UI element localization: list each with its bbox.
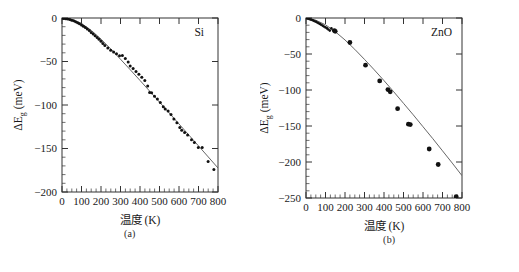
zno-plot-svg: 0 −50 −100 −150 −200 −250 [260, 0, 519, 250]
si-xtick-label-5: 500 [151, 195, 168, 207]
zno-xtick-label-4: 400 [375, 201, 392, 213]
zno-ytick-label-1: −50 [283, 48, 301, 60]
zno-xtick-label-1: 100 [317, 201, 334, 213]
si-xtick-label-4: 400 [132, 195, 149, 207]
zno-xtick-label-7: 700 [434, 201, 451, 213]
svg-text:ΔEg (meV): ΔEg (meV) [260, 82, 273, 133]
si-ytick-label-0: 0 [52, 12, 58, 24]
si-xtick-label-1: 100 [73, 195, 90, 207]
zno-ytick-label-4: −200 [278, 156, 301, 168]
si-xtick-label-0: 0 [59, 195, 65, 207]
si-data-points [62, 17, 216, 171]
si-ytick-label-1: −50 [40, 55, 58, 67]
zno-ytick-label-5: −250 [278, 192, 301, 204]
si-fit-curve [62, 18, 218, 168]
panel-a-subcaption: (a) [0, 228, 260, 239]
svg-text:ΔEg (meV): ΔEg (meV) [12, 79, 27, 130]
zno-xtick-label-8: 800 [453, 201, 470, 213]
zno-small-data-points [305, 17, 332, 32]
zno-xtick-label-0: 0 [303, 201, 309, 213]
si-plot-svg: 0 −50 −100 −150 −200 [0, 0, 259, 250]
si-axes-frame [62, 18, 218, 192]
si-xtick-label-3: 300 [112, 195, 129, 207]
zno-data-points [331, 28, 458, 199]
panel-b-subcaption: (b) [260, 234, 519, 245]
zno-ytick-label-2: −100 [278, 84, 301, 96]
panel-b-zno: 0 −50 −100 −150 −200 −250 [260, 0, 519, 272]
zno-xtick-label-5: 500 [395, 201, 412, 213]
si-ytick-label-4: −200 [34, 186, 57, 198]
panel-a-si: 0 −50 −100 −150 −200 [0, 0, 260, 272]
si-yaxis-unit: (meV) [12, 79, 25, 112]
zno-x-axis: 0 100 200 300 400 500 600 700 800 [303, 18, 471, 213]
zno-yaxis-delta-e: ΔE [260, 119, 270, 133]
si-xtick-label-7: 700 [190, 195, 207, 207]
zno-xtick-label-3: 300 [356, 201, 373, 213]
si-ytick-label-3: −150 [34, 142, 57, 154]
zno-xaxis-title: 温度 (K) [363, 219, 404, 233]
zno-material-label: ZnO [430, 26, 451, 38]
si-yaxis-title: ΔEg (meV) [12, 79, 27, 130]
si-ytick-label-2: −100 [34, 99, 57, 111]
zno-ytick-label-3: −150 [278, 120, 301, 132]
si-material-label: Si [194, 26, 204, 38]
si-xtick-label-6: 600 [171, 195, 188, 207]
zno-xtick-label-2: 200 [336, 201, 353, 213]
zno-xtick-label-6: 600 [414, 201, 431, 213]
si-xtick-label-2: 200 [93, 195, 110, 207]
zno-yaxis-unit: (meV) [260, 82, 271, 115]
si-x-axis: 0 100 200 300 400 500 600 700 800 [59, 18, 227, 207]
si-xaxis-title: 温度 (K) [120, 213, 161, 227]
figure-container: 0 −50 −100 −150 −200 [0, 0, 519, 272]
si-xtick-label-8: 800 [210, 195, 227, 207]
zno-yaxis-title: ΔEg (meV) [260, 82, 273, 133]
zno-fit-curve [306, 18, 462, 176]
zno-axes-frame [306, 18, 462, 198]
si-yaxis-delta-e: ΔE [12, 116, 24, 130]
zno-ytick-label-0: 0 [295, 12, 301, 24]
